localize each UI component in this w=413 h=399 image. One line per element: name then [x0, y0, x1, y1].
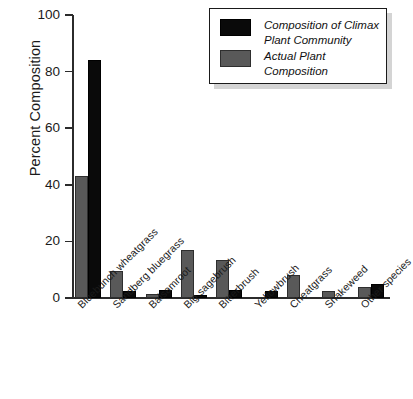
- bar-actual: [75, 176, 88, 298]
- y-tick-label-100: 100: [20, 8, 60, 22]
- legend-swatch-climax: [220, 19, 251, 36]
- legend-swatch-actual: [220, 50, 251, 67]
- chart-legend: Composition of Climax Plant Community Ac…: [209, 8, 387, 84]
- y-tick-label-80: 80: [20, 65, 60, 79]
- legend-entry-actual: Actual Plant Composition: [220, 49, 382, 78]
- bar-group: [75, 15, 110, 298]
- legend-label-actual: Actual Plant Composition: [264, 49, 382, 78]
- y-axis-label: Percent Composition: [27, 0, 43, 228]
- y-tick-label-60: 60: [20, 121, 60, 135]
- legend-entry-climax: Composition of Climax Plant Community: [220, 18, 382, 47]
- y-tick-label-0: 0: [20, 291, 60, 305]
- y-tick-label-40: 40: [20, 178, 60, 192]
- y-tick-label-20: 20: [20, 234, 60, 248]
- legend-label-climax: Composition of Climax Plant Community: [264, 18, 382, 47]
- bar-climax: [88, 60, 101, 298]
